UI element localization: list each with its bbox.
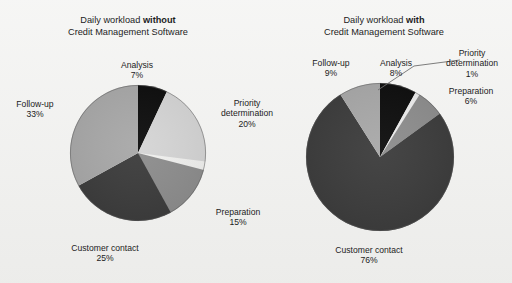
pie-graphic-with: [303, 80, 457, 234]
chart-title-with-line2: Credit Management Software: [256, 26, 512, 38]
label-follow-up-with: Follow-up 9%: [298, 58, 364, 79]
chart-title-with-prefix: Daily workload: [343, 15, 406, 25]
pie-chart-with-software: Daily workload with Credit Management So…: [256, 0, 512, 283]
figure-canvas: Daily workload without Credit Management…: [0, 0, 512, 283]
label-follow-up-without: Follow-up 33%: [2, 99, 68, 120]
pie-chart-without-software: Daily workload without Credit Management…: [0, 0, 256, 283]
label-priority-determination-with: Priority determination 1%: [432, 48, 512, 79]
chart-title-without-line2: Credit Management Software: [0, 26, 256, 38]
label-customer-contact-without: Customer contact 25%: [42, 243, 168, 264]
chart-title-with: Daily workload with Credit Management So…: [256, 14, 512, 38]
pie-graphic-without: [67, 82, 209, 224]
pie-svg-without: [67, 82, 209, 224]
chart-title-with-emphasis: with: [406, 15, 424, 25]
chart-title-without-emphasis: without: [143, 15, 176, 25]
label-customer-contact-with: Customer contact 76%: [306, 245, 432, 266]
pie-svg-with: [303, 80, 457, 234]
chart-title-without: Daily workload without Credit Management…: [0, 14, 256, 38]
label-preparation-with: Preparation 6%: [436, 86, 506, 107]
label-analysis-without: Analysis 7%: [101, 60, 173, 81]
chart-title-without-prefix: Daily workload: [80, 15, 143, 25]
label-analysis-with: Analysis 8%: [364, 58, 428, 79]
